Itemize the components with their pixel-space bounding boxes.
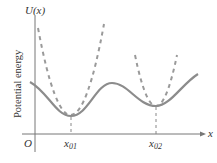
potential-energy-diagram: U(x) Potential energy O x x01 x02 xyxy=(0,0,217,163)
x-axis-title: x xyxy=(207,127,213,139)
potential-curve xyxy=(30,74,198,116)
origin-label: O xyxy=(24,137,32,149)
x-axis-arrow-icon xyxy=(200,132,206,137)
x01-label: x01 xyxy=(63,137,77,151)
parabola-approx-1 xyxy=(38,24,104,115)
x02-subscript: 02 xyxy=(154,142,162,151)
y-axis-side-label: Potential energy xyxy=(12,49,23,118)
x02-label: x02 xyxy=(148,137,162,151)
y-axis-title: U(x) xyxy=(25,4,45,17)
x01-subscript: 01 xyxy=(69,142,77,151)
